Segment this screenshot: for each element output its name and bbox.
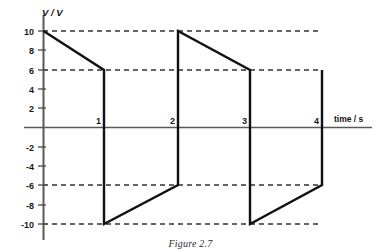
- y-tick-label-4: 4: [29, 85, 34, 95]
- x-tick-label-2: 2: [170, 116, 175, 126]
- x-tick-label-1: 1: [96, 116, 101, 126]
- y-tick-label-minus4: -4: [26, 162, 34, 172]
- y-axis-title: V / V: [42, 7, 63, 18]
- y-tick-label-10: 10: [24, 27, 34, 37]
- y-tick-label-minus2: -2: [26, 143, 34, 153]
- y-tick-label-2: 2: [29, 104, 34, 114]
- y-tick-label-minus8: -8: [26, 201, 34, 211]
- y-tick-label-6: 6: [29, 66, 34, 76]
- voltage-time-sawtooth-chart: 10 8 6 4 2 -2 -4 -6 -8 -10 1 2 3 4 V / V…: [0, 0, 381, 250]
- x-axis-title: time / s: [334, 114, 364, 124]
- x-tick-label-4: 4: [314, 116, 319, 126]
- figure-caption: Figure 2.7: [0, 238, 381, 249]
- y-tick-label-minus6: -6: [26, 181, 34, 191]
- y-tick-label-8: 8: [29, 46, 34, 56]
- x-tick-label-3: 3: [242, 116, 247, 126]
- figure-container: 10 8 6 4 2 -2 -4 -6 -8 -10 1 2 3 4 V / V…: [0, 0, 381, 250]
- y-tick-label-minus10: -10: [21, 220, 34, 230]
